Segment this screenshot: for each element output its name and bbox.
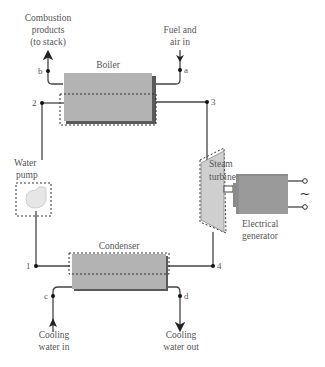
state-point-2-dot: [40, 101, 44, 105]
combustion-label-line1: Combustion: [25, 13, 72, 23]
state-point-c-label: c: [44, 291, 48, 301]
terminal-top-icon: [303, 179, 308, 184]
state-point-d-label: d: [184, 291, 189, 301]
generator-face: [239, 176, 288, 214]
state-point-a-dot: [178, 68, 182, 72]
combustion-label-line2: products: [32, 25, 65, 35]
pipe-cooling-out: [166, 287, 180, 327]
state-point-a-label: a: [184, 65, 188, 75]
generator-label-line1: Electrical: [242, 219, 279, 229]
state-point-3-label: 3: [211, 97, 216, 107]
pipe-pump-to-1: [36, 211, 70, 266]
state-point-1-dot: [34, 264, 38, 268]
turbine-shaft: [224, 186, 233, 192]
state-point-c-dot: [51, 294, 55, 298]
state-point-4-dot: [211, 264, 215, 268]
state-point-b-dot: [46, 69, 50, 73]
boiler-label: Boiler: [96, 60, 121, 70]
pipe-combustion-out: [48, 55, 63, 84]
turbine-label-line2: turbine: [209, 172, 236, 182]
water-pump[interactable]: Water pump: [14, 158, 51, 216]
fuel-label-line2: air in: [170, 37, 190, 47]
cooling-out-label-line1: Cooling: [166, 330, 197, 340]
cooling-in-label-line1: Cooling: [39, 330, 70, 340]
power-plant-diagram: Boiler Water pump Steam turbine ~ Electr…: [0, 0, 325, 367]
ac-symbol-icon: ~: [300, 186, 311, 201]
condenser-label: Condenser: [99, 241, 140, 251]
turbine-label-line1: Steam: [209, 159, 233, 169]
state-point-4-label: 4: [217, 261, 222, 271]
boiler-body: [64, 73, 152, 121]
generator-label-line2: generator: [242, 231, 279, 241]
state-point-d-dot: [178, 294, 182, 298]
cooling-in-label-line2: water in: [39, 342, 70, 352]
electrical-generator[interactable]: ~ Electrical generator: [233, 174, 310, 241]
state-point-b-label: b: [38, 66, 43, 76]
terminal-bottom-icon: [303, 205, 308, 210]
state-point-1-label: 1: [26, 261, 31, 271]
state-point-2-label: 2: [32, 98, 37, 108]
pipe-boiler-to-3: [152, 102, 207, 160]
state-point-3-dot: [205, 100, 209, 104]
boiler[interactable]: Boiler: [60, 60, 156, 125]
pump-label-line1: Water: [14, 158, 37, 168]
condenser[interactable]: Condenser: [69, 241, 169, 291]
pump-label-line2: pump: [16, 170, 38, 180]
pump-icon: [26, 187, 46, 208]
combustion-label-line3: (to stack): [30, 37, 66, 48]
cooling-out-label-line2: water out: [163, 342, 199, 352]
fuel-label-line1: Fuel and: [164, 25, 197, 35]
condenser-body: [72, 254, 166, 289]
pipe-turbine-to-4: [168, 232, 213, 266]
